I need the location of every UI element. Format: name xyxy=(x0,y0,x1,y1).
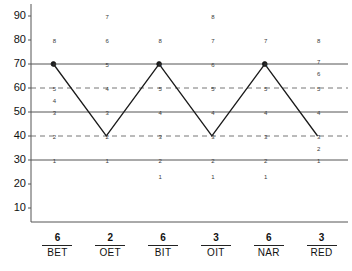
y-tick-30: 30 xyxy=(0,153,26,165)
scale-number-nar-3: 3 xyxy=(258,134,274,140)
scale-number-bet-3: 3 xyxy=(46,110,62,116)
y-tick-20: 20 xyxy=(0,177,26,189)
scale-number-oet-1: 1 xyxy=(99,158,115,164)
scale-number-red-6: 6 xyxy=(311,71,327,77)
x-label-count-nar: 6 xyxy=(247,232,291,245)
scale-number-oit-4: 4 xyxy=(205,110,221,116)
scale-number-bit-6: 6 xyxy=(152,62,168,68)
x-label-count-bit: 6 xyxy=(141,232,185,245)
x-label-oit: 3OIT xyxy=(194,232,238,259)
x-label-bet: 6BET xyxy=(35,232,79,259)
scale-number-nar-4: 4 xyxy=(258,110,274,116)
scale-number-red-7: 7 xyxy=(311,59,327,65)
scale-number-bet-8: 8 xyxy=(46,38,62,44)
x-label-rule-red xyxy=(307,245,337,246)
x-label-oet: 2OET xyxy=(88,232,132,259)
x-label-rule-bet xyxy=(42,245,72,246)
scale-number-bet-6: 6 xyxy=(46,62,62,68)
scale-number-red-4: 4 xyxy=(311,110,327,116)
x-label-count-red: 3 xyxy=(300,232,344,245)
scale-number-oit-2: 2 xyxy=(205,158,221,164)
scale-number-bit-5: 5 xyxy=(152,86,168,92)
scale-number-oet-6: 6 xyxy=(99,38,115,44)
y-tick-10: 10 xyxy=(0,201,26,213)
x-label-count-oet: 2 xyxy=(88,232,132,245)
scale-number-red-2: 2 xyxy=(311,146,327,152)
x-label-count-oit: 3 xyxy=(194,232,238,245)
scale-number-oit-5: 5 xyxy=(205,86,221,92)
x-label-count-bet: 6 xyxy=(35,232,79,245)
scale-number-nar-7: 7 xyxy=(258,38,274,44)
scale-number-nar-2: 2 xyxy=(258,158,274,164)
x-label-rule-bit xyxy=(148,245,178,246)
x-label-rule-nar xyxy=(254,245,284,246)
scale-number-bit-4: 4 xyxy=(152,110,168,116)
x-label-name-bit: BIT xyxy=(141,247,185,259)
x-label-name-oit: OIT xyxy=(194,247,238,259)
y-tick-60: 60 xyxy=(0,81,26,93)
x-label-name-red: RED xyxy=(300,247,344,259)
x-label-red: 3RED xyxy=(300,232,344,259)
scale-number-oet-5: 5 xyxy=(99,62,115,68)
scale-number-bet-4: 4 xyxy=(46,98,62,104)
scale-number-bit-8: 8 xyxy=(152,38,168,44)
scale-number-bet-2: 2 xyxy=(46,134,62,140)
scale-number-bet-1: 1 xyxy=(46,158,62,164)
scale-number-oet-7: 7 xyxy=(99,14,115,20)
scale-number-bit-1: 1 xyxy=(152,174,168,180)
y-tick-50: 50 xyxy=(0,105,26,117)
scale-number-oet-2: 2 xyxy=(99,134,115,140)
scale-number-oit-3: 3 xyxy=(205,134,221,140)
scale-number-oit-7: 7 xyxy=(205,38,221,44)
y-tick-70: 70 xyxy=(0,57,26,69)
x-label-name-nar: NAR xyxy=(247,247,291,259)
scale-number-bit-2: 2 xyxy=(152,158,168,164)
x-label-rule-oet xyxy=(95,245,125,246)
scale-number-oet-3: 3 xyxy=(99,110,115,116)
scale-number-nar-6: 6 xyxy=(258,62,274,68)
x-label-name-oet: OET xyxy=(88,247,132,259)
scale-number-red-1: 1 xyxy=(311,158,327,164)
y-tick-40: 40 xyxy=(0,129,26,141)
scale-number-bit-3: 3 xyxy=(152,134,168,140)
y-tick-80: 80 xyxy=(0,33,26,45)
scale-number-nar-1: 1 xyxy=(258,174,274,180)
profile-chart: 908070605040302010 865432176543218654321… xyxy=(0,0,352,271)
x-label-bit: 6BIT xyxy=(141,232,185,259)
scale-number-red-3: 3 xyxy=(311,134,327,140)
x-label-rule-oit xyxy=(201,245,231,246)
scale-number-bet-5: 5 xyxy=(46,86,62,92)
scale-number-oit-8: 8 xyxy=(205,14,221,20)
scale-number-red-8: 8 xyxy=(311,38,327,44)
y-tick-90: 90 xyxy=(0,9,26,21)
scale-number-red-5: 5 xyxy=(311,86,327,92)
x-label-name-bet: BET xyxy=(35,247,79,259)
scale-number-nar-5: 5 xyxy=(258,86,274,92)
x-label-nar: 6NAR xyxy=(247,232,291,259)
data-series-line xyxy=(53,64,317,136)
scale-number-oit-6: 6 xyxy=(205,62,221,68)
scale-number-oet-4: 4 xyxy=(99,86,115,92)
scale-number-oit-1: 1 xyxy=(205,174,221,180)
